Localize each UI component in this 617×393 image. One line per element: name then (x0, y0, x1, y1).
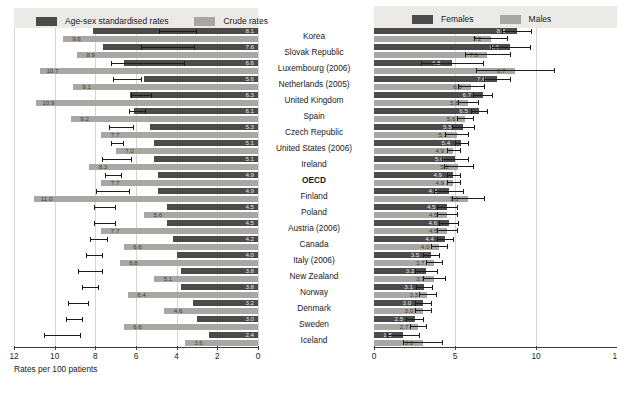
country-label-united-states-2006: United States (2006) (258, 140, 370, 156)
error-bar (69, 303, 89, 304)
value-label: 5.5 (443, 124, 452, 130)
value-label: 3.3 (409, 292, 418, 298)
bar-row: 3.13.3 (374, 284, 617, 300)
error-bar (444, 166, 473, 167)
right-plot-area: 8.87.28.47.04.88.77.66.06.75.86.55.65.55… (374, 28, 617, 348)
bar-age-sex-standardised-rates (158, 172, 258, 178)
bar-row: 3.24.6 (14, 300, 258, 316)
error-bar (406, 319, 422, 320)
legend-swatch-males (500, 15, 521, 24)
bar-crude-rates (124, 324, 258, 330)
axis-tick-label: 15 (612, 350, 617, 362)
error-bar-cap (442, 340, 443, 345)
value-label: 7.6 (245, 44, 254, 50)
error-bar (437, 239, 453, 240)
error-bar (387, 335, 419, 336)
error-bar-cap (465, 52, 466, 57)
bar-row: 1.83.0 (374, 332, 617, 348)
error-bar-cap (403, 340, 404, 345)
value-label: 3.1 (404, 284, 413, 290)
error-bar-cap (431, 301, 432, 306)
error-bar-cap (111, 61, 112, 66)
error-bar-cap (88, 301, 89, 306)
error-bar (415, 310, 431, 311)
error-bar (445, 134, 468, 135)
error-bar (452, 127, 475, 128)
bar-row: 4.911.0 (14, 188, 258, 204)
bar-crude-rates (89, 164, 258, 170)
error-bar-cap (78, 269, 79, 274)
left-bar-rows: 8.19.67.68.96.610.75.69.16.310.96.19.25.… (14, 28, 258, 348)
bar-crude-rates (34, 196, 258, 202)
error-bar-cap (151, 93, 152, 98)
error-bar (415, 271, 438, 272)
bar-age-sex-standardised-rates (167, 220, 259, 226)
error-bar-cap (426, 260, 427, 265)
bar-row: 6.75.8 (374, 92, 617, 108)
error-bar-cap (102, 269, 103, 274)
error-bar-cap (437, 237, 438, 242)
error-bar (160, 31, 197, 32)
error-bar-cap (105, 173, 106, 178)
value-label: 6.8 (129, 260, 138, 266)
error-bar-cap (129, 189, 130, 194)
error-bar-cap (141, 77, 142, 82)
legend-label-crude: Crude rates (223, 16, 267, 26)
error-bar-cap (455, 141, 456, 146)
value-label: 8.3 (99, 164, 108, 170)
error-bar-cap (107, 237, 108, 242)
error-bar-cap (432, 285, 433, 290)
country-label-denmark: Denmark (258, 300, 370, 316)
error-bar (403, 342, 442, 343)
bar-row: 3.85.1 (14, 268, 258, 284)
error-bar-cap (463, 189, 464, 194)
bar-females (374, 236, 445, 242)
error-bar-cap (96, 189, 97, 194)
value-label: 3.2 (245, 300, 254, 306)
value-label: 3.6 (194, 340, 203, 346)
value-label: 9.1 (82, 84, 91, 90)
value-label: 3.8 (245, 268, 254, 274)
country-label-poland: Poland (258, 204, 370, 220)
error-bar-cap (468, 157, 469, 162)
error-bar-cap (457, 116, 458, 121)
error-bar-cap (478, 100, 479, 105)
value-label: 5.1 (245, 156, 254, 162)
error-bar (423, 278, 446, 279)
error-bar-cap (442, 260, 443, 265)
error-bar-cap (94, 221, 95, 226)
value-label: 3.0 (405, 340, 414, 346)
bar-row: 4.88.7 (374, 60, 617, 76)
bar-crude-rates (128, 292, 258, 298)
error-bar (474, 38, 506, 39)
value-label: 5.4 (441, 140, 450, 146)
bar-row: 5.37.7 (14, 124, 258, 140)
error-bar-cap (491, 45, 492, 50)
error-bar-cap (109, 125, 110, 130)
error-bar-cap (447, 148, 448, 153)
error-bar-cap (476, 68, 477, 73)
axis-tick-mark (14, 346, 15, 350)
error-bar-cap (66, 317, 67, 322)
bar-row: 5.17.0 (14, 140, 258, 156)
right-axis-ticks: 051015 (374, 350, 617, 362)
error-bar (439, 223, 458, 224)
value-label: 4.2 (245, 236, 254, 242)
bar-row: 6.55.6 (374, 108, 617, 124)
value-label: 5.6 (245, 76, 254, 82)
value-label: 5.3 (245, 124, 254, 130)
error-bar-cap (437, 228, 438, 233)
error-bar-cap (473, 116, 474, 121)
value-label: 4.9 (245, 188, 254, 194)
error-bar (442, 159, 468, 160)
value-label: 7.7 (111, 132, 120, 138)
bar-row: 5.05.2 (374, 156, 617, 172)
country-label-oecd: OECD (258, 172, 370, 188)
error-bar-cap (141, 45, 142, 50)
bar-age-sex-standardised-rates (158, 188, 258, 194)
error-bar-cap (447, 173, 448, 178)
error-bar-cap (419, 333, 420, 338)
error-bar (502, 31, 531, 32)
error-bar (67, 319, 83, 320)
country-label-slovak-republic: Slovak Republic (258, 44, 370, 60)
